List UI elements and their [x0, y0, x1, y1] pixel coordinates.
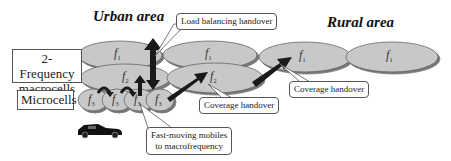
microcells-label: Microcells	[17, 90, 74, 110]
f-subscript: 3	[115, 100, 119, 108]
f1-label: f1	[299, 48, 306, 64]
f-subscript: 3	[158, 100, 162, 108]
f-subscript: 1	[389, 56, 393, 64]
f2-label: f2	[122, 69, 129, 85]
fast-moving-line2: to macrofrequency	[151, 141, 227, 152]
f1-label: f1	[114, 46, 121, 62]
rural-area-title: Rural area	[327, 14, 394, 31]
car-icon	[78, 124, 122, 138]
urban-area-title: Urban area	[93, 8, 164, 25]
f-subscript: 2	[213, 77, 217, 85]
f2-label: f2	[210, 69, 217, 85]
f-subscript: 1	[302, 56, 306, 64]
f3-label: f3	[88, 92, 95, 108]
fast-moving-callout: Fast-moving mobiles to macrofrequency	[146, 127, 232, 155]
f-subscript: 1	[117, 54, 121, 62]
f1-label: f1	[205, 46, 212, 62]
coverage-handover-callout-2: Coverage handover	[289, 81, 369, 98]
coverage-handover-callout-1: Coverage handover	[199, 97, 279, 114]
fast-moving-line1: Fast-moving mobiles	[151, 130, 227, 141]
f3-label: f3	[155, 92, 162, 108]
load-balancing-callout: Load balancing handover	[176, 13, 277, 30]
f-subscript: 2	[125, 77, 129, 85]
macrocells-label-line1: 2-Frequency	[16, 51, 78, 81]
f-subscript: 3	[91, 100, 95, 108]
f3-label: f3	[112, 92, 119, 108]
f-subscript: 3	[137, 100, 141, 108]
load-balancing-arrow-shaft	[150, 48, 156, 82]
f3-label: f3	[134, 92, 141, 108]
f1-label: f1	[386, 48, 393, 64]
f-subscript: 1	[208, 54, 212, 62]
macrocells-label: 2-Frequency macrocells	[12, 49, 82, 83]
